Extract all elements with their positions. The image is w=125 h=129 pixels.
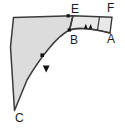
- vertex-label-F: F: [107, 2, 114, 14]
- dot-at-B: [68, 28, 71, 31]
- geometry-figure: E F B A C: [0, 0, 125, 129]
- vertex-label-C: C: [15, 112, 24, 124]
- dot-interior: [40, 53, 44, 57]
- dot-on-top-edge: [67, 14, 70, 17]
- figure-canvas: [0, 0, 125, 129]
- vertex-label-E: E: [71, 3, 79, 15]
- main-shaded-region: [11, 16, 74, 111]
- band-region-EFAB: [70, 16, 113, 33]
- direction-arrow-icon: [43, 66, 50, 73]
- vertex-label-B: B: [70, 34, 78, 46]
- vertex-label-A: A: [107, 33, 115, 45]
